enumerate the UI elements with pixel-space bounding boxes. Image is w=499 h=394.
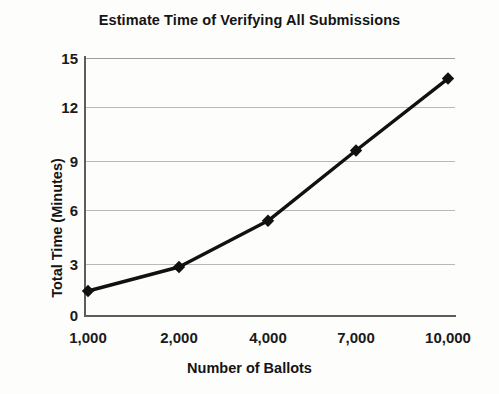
- plot-area: [85, 58, 455, 315]
- x-axis-label: Number of Ballots: [0, 360, 499, 376]
- gridline-3: [85, 264, 455, 265]
- x-axis-line: [84, 315, 456, 317]
- gridline-15: [85, 58, 455, 59]
- y-axis-label-holder: Total Time (Minutes): [34, 90, 54, 290]
- y-axis-line: [84, 56, 86, 317]
- x-tick-4000: 4,000: [223, 329, 313, 346]
- gridline-12: [85, 107, 455, 108]
- gridline-6: [85, 210, 455, 211]
- y-axis-label: Total Time (Minutes): [49, 133, 65, 323]
- gridline-9: [85, 161, 455, 162]
- x-tick-7000: 7,000: [311, 329, 401, 346]
- y-tick-15: 15: [44, 50, 78, 67]
- chart-figure: Estimate Time of Verifying All Submissio…: [0, 0, 499, 394]
- x-tick-10000: 10,000: [403, 329, 493, 346]
- x-tick-1000: 1,000: [43, 329, 133, 346]
- x-tick-2000: 2,000: [134, 329, 224, 346]
